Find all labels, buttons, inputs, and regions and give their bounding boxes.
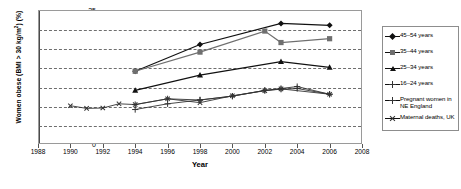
data-point-marker xyxy=(197,41,203,47)
data-point-marker xyxy=(66,101,75,110)
x-tick-mark xyxy=(38,144,39,148)
y-axis-title-tail: ) (%) xyxy=(15,11,22,26)
legend-marker-icon xyxy=(385,96,400,105)
legend-marker-icon xyxy=(385,48,400,57)
x-tick-label: 1996 xyxy=(151,148,185,155)
legend-item-6[interactable]: Maternal deaths, UK xyxy=(385,113,456,129)
legend-marker-icon xyxy=(385,114,400,123)
legend-item-label: 45–54 years xyxy=(400,31,433,38)
x-tick-label: 2004 xyxy=(280,148,314,155)
x-tick-mark xyxy=(265,144,266,148)
x-tick-mark xyxy=(330,144,331,148)
series-line xyxy=(135,31,329,71)
data-point-marker xyxy=(133,69,138,74)
legend-item-label: 35–44 years xyxy=(400,47,433,54)
chart-figure: Women obese (BMI > 30 kg/m2) (%) 0510152… xyxy=(0,0,461,189)
x-axis-title: Year xyxy=(38,160,362,169)
series-line xyxy=(135,62,329,91)
x-tick-label: 1998 xyxy=(183,148,217,155)
x-tick-mark xyxy=(232,144,233,148)
series-1 xyxy=(132,20,332,74)
data-point-marker xyxy=(197,50,202,55)
legend-item-label: 25–34 years xyxy=(400,63,433,70)
x-tick-mark xyxy=(135,144,136,148)
chart-legend: 45–54 years35–44 years25–34 years16–24 y… xyxy=(382,26,459,131)
x-tick-mark xyxy=(362,144,363,148)
x-tick-label: 2002 xyxy=(248,148,282,155)
x-tick-label: 1992 xyxy=(86,148,120,155)
legend-item-label: 16–24 years xyxy=(400,79,433,86)
x-tick-mark xyxy=(297,144,298,148)
x-tick-mark xyxy=(168,144,169,148)
y-axis-title-sup: 2 xyxy=(14,25,19,28)
legend-marker-icon xyxy=(385,32,400,41)
data-point-marker xyxy=(278,40,283,45)
x-tick-label: 2008 xyxy=(345,148,379,155)
x-tick-label: 1990 xyxy=(53,148,87,155)
data-point-marker xyxy=(262,28,267,33)
x-tick-mark xyxy=(103,144,104,148)
legend-item-3[interactable]: 25–34 years xyxy=(385,63,456,79)
y-axis-title-main: Women obese (BMI > 30 kg/m xyxy=(15,28,22,123)
legend-item-label: Pregnant women in NE England xyxy=(400,95,452,109)
x-tick-mark xyxy=(70,144,71,148)
data-point-marker xyxy=(278,58,284,64)
legend-item-5[interactable]: Pregnant women in NE England xyxy=(385,95,456,113)
legend-item-4[interactable]: 16–24 years xyxy=(385,79,456,95)
data-point-marker xyxy=(278,20,284,26)
legend-item-label: Maternal deaths, UK xyxy=(400,113,455,120)
x-tick-label: 1988 xyxy=(21,148,55,155)
series-2 xyxy=(133,28,333,73)
x-tick-label: 2000 xyxy=(215,148,249,155)
y-axis-title: Women obese (BMI > 30 kg/m2) (%) xyxy=(14,0,22,137)
x-tick-mark xyxy=(200,144,201,148)
legend-item-1[interactable]: 45–54 years xyxy=(385,31,456,47)
legend-item-2[interactable]: 35–44 years xyxy=(385,47,456,63)
legend-marker-icon xyxy=(385,80,400,89)
data-point-marker xyxy=(327,22,333,28)
legend-marker-icon xyxy=(385,64,400,73)
x-tick-label: 1994 xyxy=(118,148,152,155)
x-tick-label: 2006 xyxy=(313,148,347,155)
data-series-layer xyxy=(38,10,362,144)
data-point-marker xyxy=(327,36,332,41)
